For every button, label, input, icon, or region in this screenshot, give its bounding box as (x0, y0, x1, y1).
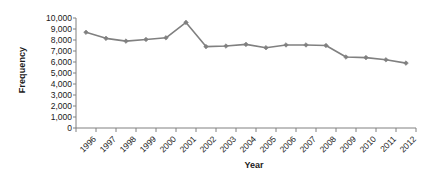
x-tick-label: 2003 (218, 134, 238, 154)
y-axis-tick-labels: 01,0002,0003,0004,0005,0006,0007,0008,00… (26, 0, 72, 179)
x-tick-label: 1997 (98, 134, 118, 154)
x-tick-label: 2011 (378, 134, 398, 154)
x-tick-label: 2000 (158, 134, 178, 154)
line-chart: Frequency 01,0002,0003,0004,0005,0006,00… (0, 0, 448, 179)
y-tick-label: 7,000 (26, 47, 72, 55)
y-tick-label: 10,000 (26, 14, 72, 22)
x-tick-label: 2009 (338, 134, 358, 154)
data-point-marker (264, 45, 269, 50)
data-point-marker (244, 42, 249, 47)
x-tick-label: 1996 (78, 134, 98, 154)
x-axis-title: Year (0, 160, 448, 170)
data-point-marker (364, 55, 369, 60)
x-tick-label: 2002 (198, 134, 218, 154)
plot-area (76, 18, 416, 128)
data-point-marker (304, 43, 309, 48)
x-tick-label: 2010 (358, 134, 378, 154)
x-tick-label: 2001 (178, 134, 198, 154)
data-point-marker (224, 44, 229, 49)
x-tick-label: 2008 (318, 134, 338, 154)
data-point-marker (144, 37, 149, 42)
data-point-marker (404, 61, 409, 66)
data-point-marker (84, 30, 89, 35)
x-tick-label: 2006 (278, 134, 298, 154)
x-tick-label: 1998 (118, 134, 138, 154)
y-tick-label: 4,000 (26, 80, 72, 88)
y-tick-label: 0 (26, 124, 72, 132)
x-tick-label: 2004 (238, 134, 258, 154)
y-tick-label: 2,000 (26, 102, 72, 110)
y-tick-label: 8,000 (26, 36, 72, 44)
x-tick-label: 2005 (258, 134, 278, 154)
y-tick-label: 1,000 (26, 113, 72, 121)
data-point-marker (284, 43, 289, 48)
data-point-marker (124, 39, 129, 44)
x-tick-label: 1999 (138, 134, 158, 154)
x-tick-label: 2012 (398, 134, 418, 154)
data-point-marker (384, 58, 389, 63)
y-tick-label: 5,000 (26, 69, 72, 77)
x-tick-label: 2007 (298, 134, 318, 154)
y-tick-label: 9,000 (26, 25, 72, 33)
series-line (76, 18, 416, 128)
data-point-marker (104, 36, 109, 41)
y-tick-label: 6,000 (26, 58, 72, 66)
y-tick-label: 3,000 (26, 91, 72, 99)
